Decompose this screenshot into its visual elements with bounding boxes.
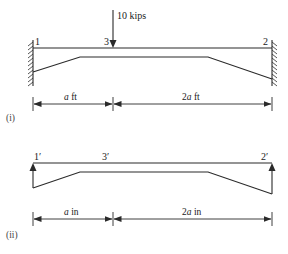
up-arrow-icon-right <box>269 163 276 171</box>
tapered-beam-i <box>33 48 272 79</box>
figure-id-i: (i) <box>6 113 15 124</box>
node-label-1-prime: 1′ <box>34 151 41 162</box>
load-label: 10 kips <box>117 10 146 21</box>
node-label-3: 3 <box>104 36 109 47</box>
node-label-2-prime: 2′ <box>261 151 268 162</box>
dimension-label-2a-in: 2a in <box>182 207 202 217</box>
figure-id-ii: (ii) <box>6 230 18 241</box>
node-label-2: 2 <box>263 36 268 47</box>
up-arrow-icon-left <box>30 163 37 171</box>
right-fixed-support <box>272 40 277 86</box>
node-label-3-prime: 3′ <box>102 151 109 162</box>
dimension-label-2a-ft: 2a ft <box>182 92 200 102</box>
down-arrow-icon <box>110 10 117 48</box>
node-label-1: 1 <box>35 36 40 47</box>
tapered-beam-ii <box>33 163 272 194</box>
figure-ii: 1′ 3′ 2′ a in 2a in (ii) <box>6 151 276 241</box>
dimension-label-a-ft: a ft <box>64 92 77 102</box>
beam-diagram: 10 kips 1 3 2 a ft 2a ft (i) 1′ 3′ 2 <box>0 0 288 254</box>
dimension-label-a-in: a in <box>64 207 79 217</box>
left-fixed-support <box>28 40 33 86</box>
figure-i: 10 kips 1 3 2 a ft 2a ft (i) <box>6 10 277 124</box>
